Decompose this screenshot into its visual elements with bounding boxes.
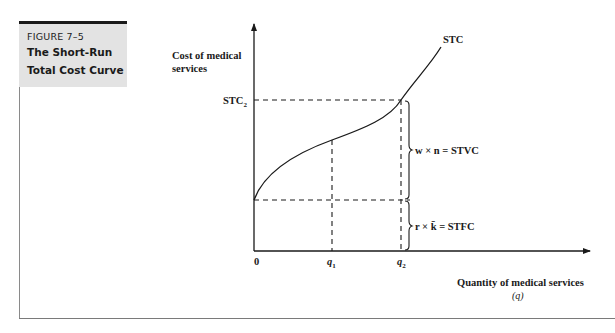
origin-tick-label: 0: [254, 256, 259, 267]
q1-tick-label: q1: [327, 256, 336, 270]
stfc-label: r × k̄ = STFC: [415, 221, 475, 232]
q2-tick-label: q2: [397, 256, 406, 270]
stc-curve-label: STC: [443, 34, 463, 45]
stvc-brace: [405, 101, 412, 199]
y-axis-label-line2: services: [172, 63, 207, 74]
y-axis-label-line1: Cost of medical: [172, 50, 241, 61]
cost-chart: Cost of medical services Quantity of med…: [0, 0, 615, 333]
stc2-tick-label: STC2: [223, 95, 247, 109]
x-axis-label: Quantity of medical services: [457, 277, 584, 288]
stc-curve: [254, 47, 441, 200]
stvc-label: w × n = STVC: [415, 145, 479, 156]
stfc-brace: [405, 201, 412, 250]
x-axis-symbol: (q): [512, 290, 524, 302]
